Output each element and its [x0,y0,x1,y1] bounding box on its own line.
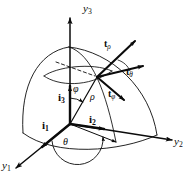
axis-label-y1: y1 [2,160,11,173]
spherical-coordinates-figure: y3 y2 y1 i3 i2 i1 tρ tθ tφ φ θ ρ [0,0,191,173]
basis-label-i1: i1 [42,120,49,133]
basis-label-i3: i3 [58,92,65,105]
angle-theta-arc [52,137,103,165]
basis-label-i2: i2 [89,114,96,127]
radial-label-rho: ρ [90,92,95,102]
angle-label-theta: θ [63,137,68,147]
angle-phi-arc [70,98,83,102]
axis-label-y2: y2 [174,136,183,149]
axis-label-y3: y3 [83,3,92,16]
figure-canvas [0,0,191,173]
vector-label-t-rho: tρ [104,39,111,51]
vector-label-t-theta: tθ [126,67,133,79]
angle-label-phi: φ [73,84,79,94]
vector-label-t-phi: tφ [108,89,115,101]
